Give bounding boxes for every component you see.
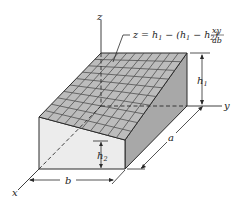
a-label: a [168,132,174,143]
b-dimension [29,170,125,184]
surface-equation: z = h1 − (h1 − h2) xy ab [132,26,224,45]
b-label: b [65,175,71,186]
y-axis-label: y [223,100,230,111]
x-axis-label: x [12,187,18,198]
sloped-block-diagram: z y x z = h1 − (h1 − h2) xy ab h1 h2 a b [0,0,241,205]
svg-text:ab: ab [212,36,222,45]
svg-text:z = h1 − (h1 − h2): z = h1 − (h1 − h2) [132,29,219,42]
x-axis-solid [18,169,39,190]
svg-text:xy: xy [212,26,222,35]
z-axis-label: z [96,11,103,22]
